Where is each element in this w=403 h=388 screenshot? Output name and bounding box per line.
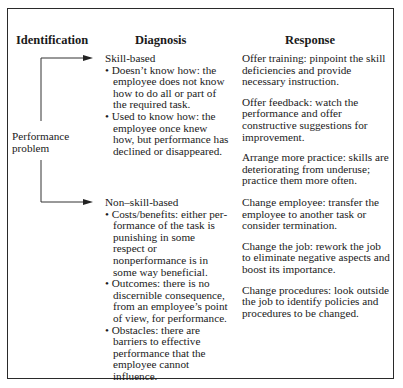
diagnosis-non-skill-based: Non–skill-based • Costs/benefits: either…	[105, 197, 229, 383]
diagnosis-skill-based: Skill-based • Doesn’t know how: the empl…	[105, 53, 229, 157]
response-item: Offer feedback: watch the perfor­mance a…	[242, 97, 392, 143]
performance-problem-label: Performance problem	[12, 131, 69, 154]
response-item: Change procedures: look outside the job …	[242, 285, 392, 320]
diagnosis-bullet: • Outcomes: there is no dis­cernible con…	[105, 278, 229, 324]
response-item: Change employee: transfer the employee t…	[242, 197, 392, 232]
diagnosis-title: Skill-based	[105, 53, 229, 65]
response-item: Offer training: pinpoint the skill defic…	[242, 53, 392, 88]
diagnosis-bullet: • Costs/benefits: either per­formance of…	[105, 209, 229, 279]
diagnosis-title: Non–skill-based	[105, 197, 229, 209]
diagnosis-bullet: • Doesn’t know how: the employee does no…	[105, 65, 229, 111]
response-item: Change the job: rework the job to elimin…	[242, 241, 392, 276]
arrowhead-skill-based-icon	[83, 55, 93, 61]
diagnosis-bullet: • Used to know how: the employee once kn…	[105, 111, 229, 157]
responses-skill-based: Offer training: pinpoint the skill defic…	[242, 53, 392, 196]
arrowhead-non-skill-based-icon	[83, 199, 93, 205]
responses-non-skill-based: Change employee: transfer the employee t…	[242, 197, 392, 328]
response-item: Arrange more practice: skills are deteri…	[242, 152, 392, 187]
diagnosis-bullet: • Obstacles: there are barriers to effec…	[105, 325, 229, 383]
